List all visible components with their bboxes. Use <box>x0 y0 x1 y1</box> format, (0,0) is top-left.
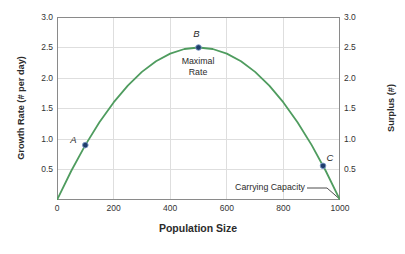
left-y-tick-label: 1.0 <box>41 134 53 145</box>
right-y-tick-label: 1.5 <box>344 103 356 114</box>
right-y-tick-label: 2.0 <box>344 73 356 84</box>
plot-area <box>57 17 340 200</box>
right-y-tick-label: 1.0 <box>344 134 356 145</box>
right-y-tick-label: 3.0 <box>344 12 356 23</box>
left-y-tick-label: 3.0 <box>41 12 53 23</box>
point-B-label: B <box>193 29 199 39</box>
right-y-tick-label: 2.5 <box>344 42 356 53</box>
right-y-axis-title: Surplus (#) <box>386 84 396 132</box>
point-C-label: C <box>327 153 334 163</box>
carrying-capacity-annotation: Carrying Capacity <box>235 182 305 193</box>
x-tick-label: 0 <box>55 203 60 214</box>
x-tick-label: 400 <box>163 203 177 214</box>
left-y-tick-label: 1.5 <box>41 103 53 114</box>
left-y-tick-label: 2.5 <box>41 42 53 53</box>
x-tick-label: 1000 <box>331 203 350 214</box>
maximal-rate-annotation: Maximal Rate <box>172 56 224 77</box>
point-B-marker <box>196 45 202 51</box>
point-C-marker <box>320 163 326 169</box>
x-axis-title: Population Size <box>159 222 237 234</box>
left-y-tick-label: 0.5 <box>41 164 53 175</box>
x-tick-label: 800 <box>276 203 290 214</box>
left-y-axis-title: Growth Rate (# per day) <box>16 56 26 160</box>
point-A-label: A <box>70 135 76 145</box>
point-A-marker <box>83 142 89 148</box>
right-y-tick-label: 0.5 <box>344 164 356 175</box>
x-tick-label: 600 <box>220 203 234 214</box>
growth-rate-chart: Growth Rate (# per day) Surplus (#) Popu… <box>0 0 405 254</box>
left-y-tick-label: 2.0 <box>41 73 53 84</box>
x-tick-label: 200 <box>107 203 121 214</box>
